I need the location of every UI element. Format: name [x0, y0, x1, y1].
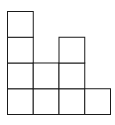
- square-col4-row1: [85, 89, 111, 115]
- polyomino-diagram: [0, 0, 115, 125]
- square-col2-row1: [33, 89, 59, 115]
- square-col3-row1: [59, 89, 85, 115]
- square-col2-row2: [33, 63, 59, 89]
- square-col3-row2: [59, 63, 85, 89]
- square-col1-row1: [8, 89, 34, 115]
- square-col1-row4: [8, 12, 34, 38]
- square-col1-row2: [8, 63, 34, 89]
- square-col3-row3: [59, 37, 85, 63]
- square-col1-row3: [8, 37, 34, 63]
